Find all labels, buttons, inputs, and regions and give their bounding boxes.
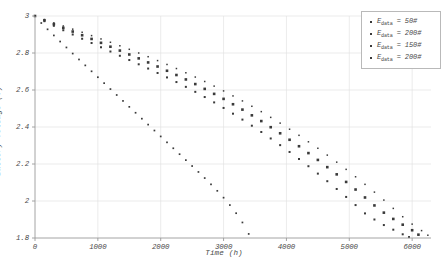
x-tick-label: 2000 xyxy=(152,243,169,251)
legend-marker-icon xyxy=(365,21,377,23)
x-tick-label: 5000 xyxy=(341,243,358,251)
x-tick-label: 1000 xyxy=(89,243,106,251)
legend-label: Edata = 150# xyxy=(377,41,421,51)
x-tick-label: 3000 xyxy=(215,243,232,251)
y-tick-label: 2.2 xyxy=(0,160,29,168)
legend-item: Edata = 200# xyxy=(365,52,437,64)
y-tick-label: 1.8 xyxy=(0,234,29,242)
legend-marker-icon xyxy=(365,57,377,59)
legend-label: Edata = 200# xyxy=(377,29,421,39)
x-tick-label: 0 xyxy=(33,243,37,251)
legend-label: Edata = 200# xyxy=(377,53,421,63)
chart-legend: Edata = 50#Edata = 200#Edata = 150#Edata… xyxy=(361,11,441,69)
y-tick-label: 2 xyxy=(0,197,29,205)
y-tick-label: 2.4 xyxy=(0,123,29,131)
x-tick-label: 6000 xyxy=(403,243,420,251)
legend-label: Edata = 50# xyxy=(377,17,417,27)
legend-marker-icon xyxy=(365,45,377,48)
y-tick-label: 2.6 xyxy=(0,86,29,94)
x-tick-label: 4000 xyxy=(278,243,295,251)
legend-marker-icon xyxy=(365,33,377,35)
y-tick-label: 3 xyxy=(0,12,29,20)
legend-item: Edata = 200# xyxy=(365,28,437,40)
y-tick-label: 2.8 xyxy=(0,49,29,57)
chart-figure: Battery Voltage (V) Time (h) 1.822.22.42… xyxy=(0,0,448,263)
legend-item: Edata = 50# xyxy=(365,16,437,28)
legend-item: Edata = 150# xyxy=(365,40,437,52)
